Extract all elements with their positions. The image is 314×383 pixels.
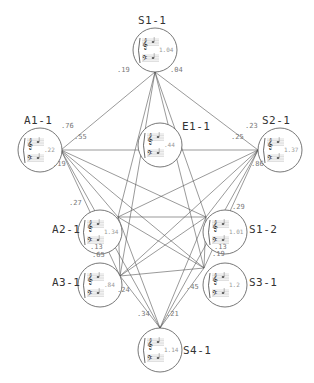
edge-weight: .25 (231, 133, 244, 141)
edge-weight: .19 (117, 66, 130, 74)
node-label: S4-1 (183, 344, 212, 357)
edge (120, 268, 204, 276)
edge-weight: .76 (61, 122, 74, 130)
treble-clef-icon: 𝄞 (212, 273, 218, 285)
edge (120, 276, 160, 328)
treble-clef-icon: 𝄞 (212, 220, 218, 232)
edge (118, 217, 204, 268)
edge (61, 150, 206, 217)
bass-clef-icon: 𝄢 (147, 355, 152, 364)
treble-clef-icon: 𝄞 (267, 138, 273, 150)
bass-clef-icon: 𝄢 (147, 150, 152, 159)
node-e1-1: 𝄞𝄢 (138, 123, 182, 167)
edge-weight: .86 (251, 160, 264, 168)
treble-clef-icon: 𝄞 (87, 273, 93, 285)
treble-clef-icon: 𝄞 (87, 220, 93, 232)
node-value: .44 (164, 141, 175, 148)
node-value: .84 (104, 281, 115, 288)
edge-weight: .27 (69, 199, 82, 207)
treble-clef-icon: 𝄞 (142, 38, 148, 50)
node-value: 1.34 (104, 228, 118, 235)
node-label: S2-1 (262, 114, 291, 127)
edge (160, 268, 204, 328)
edge-layer: 𝄞𝄢𝄞𝄢𝄞𝄢𝄞𝄢𝄞𝄢𝄞𝄢𝄞𝄢𝄞𝄢𝄞𝄢 (0, 0, 314, 383)
treble-clef-icon: 𝄞 (147, 133, 153, 145)
bass-clef-icon: 𝄢 (87, 290, 92, 299)
node-value: 1.2 (229, 281, 240, 288)
treble-clef-icon: 𝄞 (147, 338, 153, 350)
node-label: A2-1 (52, 223, 81, 236)
node-value: 1.14 (164, 346, 178, 353)
edge-weight: .19 (212, 250, 225, 258)
edge-weight: .21 (166, 310, 179, 318)
treble-clef-icon: 𝄞 (27, 138, 33, 150)
node-label: E1-1 (182, 120, 211, 133)
bass-clef-icon: 𝄢 (212, 290, 217, 299)
edge-weight: .45 (186, 283, 199, 291)
edge-weight: .34 (137, 310, 150, 318)
node-a3-1: 𝄞𝄢 (78, 263, 122, 307)
edge-weight: .19 (53, 160, 66, 168)
edge-weight: .65 (92, 251, 105, 259)
edge (155, 72, 204, 268)
node-value: 1.01 (229, 228, 243, 235)
node-label: S1-1 (138, 14, 167, 27)
bass-clef-icon: 𝄢 (142, 55, 147, 64)
bass-clef-icon: 𝄢 (267, 155, 272, 164)
node-label: S1-2 (249, 223, 278, 236)
network-diagram: 𝄞𝄢𝄞𝄢𝄞𝄢𝄞𝄢𝄞𝄢𝄞𝄢𝄞𝄢𝄞𝄢𝄞𝄢 1.04S1-1.22A1-1.44E1-… (0, 0, 314, 383)
node-label: A3-1 (52, 276, 81, 289)
node-value: 1.37 (284, 146, 298, 153)
edge-weight: .55 (74, 133, 87, 141)
edge (61, 150, 204, 268)
node-s3-1: 𝄞𝄢 (203, 263, 247, 307)
node-label: S3-1 (249, 276, 278, 289)
edge-weight: .04 (170, 66, 183, 74)
edge-weight: .24 (117, 286, 130, 294)
node-label: A1-1 (24, 114, 53, 127)
edge (120, 72, 155, 276)
node-value: .22 (44, 146, 55, 153)
bass-clef-icon: 𝄢 (27, 155, 32, 164)
edge-weight: .23 (245, 122, 258, 130)
edge-weight: .13 (90, 243, 103, 251)
edge-weight: .29 (232, 203, 245, 211)
node-value: 1.04 (159, 46, 173, 53)
